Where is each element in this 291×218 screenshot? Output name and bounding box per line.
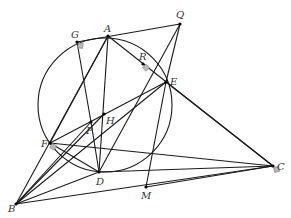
segment-BP <box>16 122 91 204</box>
point-A <box>106 34 109 37</box>
label-P: P <box>85 125 93 136</box>
right-angle-marks <box>50 43 280 173</box>
point-R <box>141 62 144 65</box>
label-B: B <box>7 203 15 214</box>
label-D: D <box>95 176 104 187</box>
geometry-diagram: AQGREHPFDMCB <box>0 0 291 218</box>
point-labels: AQGREHPFDMCB <box>7 9 285 214</box>
right-angle-mark-G <box>78 43 84 49</box>
point-P <box>89 120 92 123</box>
label-G: G <box>71 29 79 40</box>
label-H: H <box>105 115 115 126</box>
segment-EC <box>166 82 273 166</box>
point-F <box>48 141 51 144</box>
label-Q: Q <box>176 9 184 20</box>
segment-GP <box>77 42 91 122</box>
point-C <box>271 164 274 167</box>
segment-AD <box>99 36 108 172</box>
points <box>14 22 274 205</box>
circle <box>38 38 172 172</box>
segment-QE <box>166 24 180 82</box>
label-A: A <box>103 23 111 34</box>
point-Q <box>178 22 181 25</box>
label-E: E <box>169 76 178 87</box>
segment-GQ <box>77 24 180 42</box>
label-R: R <box>138 51 147 62</box>
segment-MC <box>146 166 273 187</box>
label-C: C <box>277 161 285 172</box>
point-D <box>97 170 100 173</box>
label-F: F <box>40 138 49 149</box>
circumcircle <box>38 38 172 172</box>
segment-FE <box>50 82 166 143</box>
segment-BD <box>16 172 99 204</box>
label-M: M <box>140 190 152 201</box>
segment-EM <box>146 82 166 187</box>
point-E <box>164 80 167 83</box>
point-G <box>75 40 78 43</box>
point-M <box>144 185 147 188</box>
